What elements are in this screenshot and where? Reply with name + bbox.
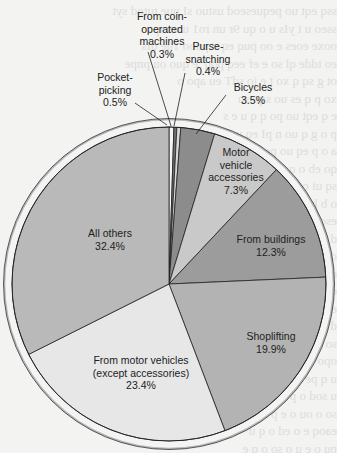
label-pocket-picking: Pocket- picking 0.5%: [90, 71, 140, 109]
leader-line-purse-snatching: [174, 73, 185, 126]
label-text: vehicle: [206, 159, 266, 172]
label-text: From coin-: [124, 10, 200, 23]
label-text: Pocket-: [90, 71, 140, 84]
label-all-others: All others 32.4%: [75, 227, 145, 252]
label-percent: 12.3%: [231, 246, 311, 259]
leader-line-coin-operated: [148, 52, 171, 126]
label-text: operated: [124, 23, 200, 36]
label-text: picking: [90, 84, 140, 97]
label-percent: 0.5%: [90, 96, 140, 109]
label-from-buildings: From buildings 12.3%: [231, 233, 311, 258]
label-text: Motor: [206, 146, 266, 159]
label-text: From buildings: [231, 233, 311, 246]
label-text: snatching: [178, 53, 238, 66]
label-motor-vehicle-accessories: Motor vehicle accessories 7.3%: [206, 146, 266, 196]
label-percent: 19.9%: [236, 343, 306, 356]
label-percent: 23.4%: [76, 379, 206, 392]
label-percent: 3.5%: [225, 94, 281, 107]
label-text: Bicycles: [225, 81, 281, 94]
label-text: accessories: [206, 171, 266, 184]
label-text: Shoplifting: [236, 330, 306, 343]
label-text: Purse-: [178, 40, 238, 53]
label-from-motor-vehicles: From motor vehicles (except accessories)…: [76, 354, 206, 392]
label-percent: 7.3%: [206, 184, 266, 197]
label-shoplifting: Shoplifting 19.9%: [236, 330, 306, 355]
label-percent: 0.4%: [178, 65, 238, 78]
label-text: From motor vehicles: [76, 354, 206, 367]
label-purse-snatching: Purse- snatching 0.4%: [178, 40, 238, 78]
label-percent: 32.4%: [75, 240, 145, 253]
label-text: All others: [75, 227, 145, 240]
pie-slices: [12, 127, 326, 441]
label-text: (except accessories): [76, 367, 206, 380]
label-bicycles: Bicycles 3.5%: [225, 81, 281, 106]
